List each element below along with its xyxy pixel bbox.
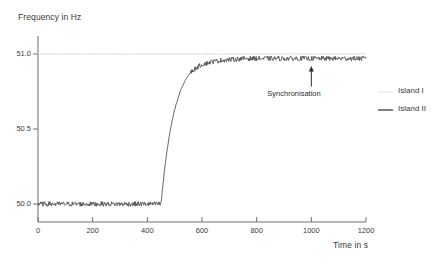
series-line-1: [38, 53, 366, 54]
annotation-arrow: [309, 67, 314, 87]
x-axis-ticks: [38, 217, 366, 222]
plot-area: [0, 0, 448, 264]
arrow-head: [309, 67, 314, 72]
legend-sample-lines: [378, 92, 393, 110]
data-series-group: [38, 53, 366, 206]
y-axis-ticks: [33, 54, 38, 204]
chart-figure: Frequency in Hz Time in s 02004006008001…: [0, 0, 448, 264]
series-line-2: [38, 56, 366, 206]
